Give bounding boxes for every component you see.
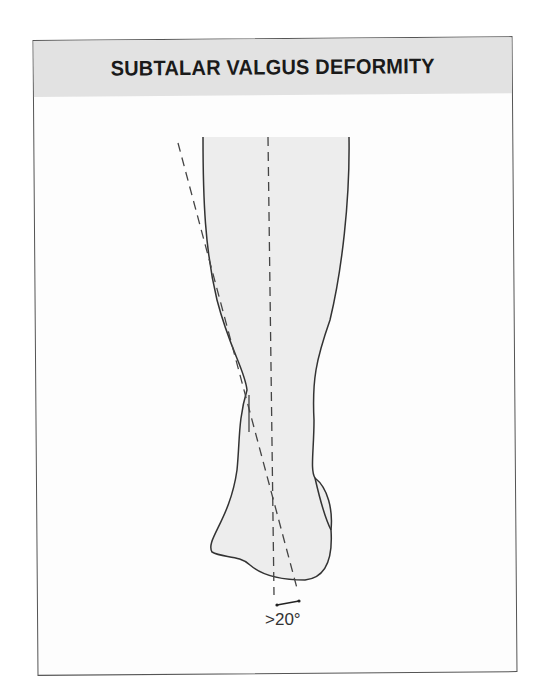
leg-diagram: [0, 0, 543, 699]
angle-marker: [277, 601, 299, 605]
angle-label: >20°: [265, 610, 301, 630]
